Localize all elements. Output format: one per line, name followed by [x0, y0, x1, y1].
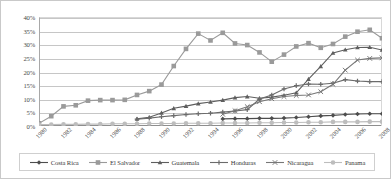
data-point-marker	[380, 111, 382, 116]
data-point-marker	[98, 122, 103, 126]
data-point-marker	[233, 41, 238, 46]
x-axis-tick-label: 1986	[108, 126, 122, 140]
data-point-marker	[61, 122, 66, 126]
data-point-marker	[355, 120, 360, 125]
data-point-marker	[135, 117, 140, 122]
x-axis-tick-label: 2008	[377, 126, 391, 140]
data-point-marker	[245, 121, 250, 126]
data-point-marker	[294, 120, 299, 125]
data-point-marker	[331, 42, 336, 47]
data-point-marker	[122, 122, 127, 126]
data-point-marker	[159, 114, 164, 119]
data-point-marker	[184, 121, 189, 126]
data-point-marker	[380, 36, 382, 41]
legend-item-el-salvador[interactable]: El Salvador	[88, 158, 140, 167]
data-point-marker	[122, 98, 127, 103]
legend-item-nicaragua[interactable]: Nicaragua	[265, 158, 313, 167]
legend-label: Honduras	[231, 159, 256, 166]
y-axis-tick-label: 0%	[1, 123, 35, 130]
legend-label: El Salvador	[110, 159, 140, 166]
data-point-marker	[343, 120, 348, 125]
x-axis-tick-label: 1984	[83, 126, 97, 140]
legend-item-honduras[interactable]: Honduras	[209, 158, 256, 167]
series-panama	[39, 119, 382, 126]
legend-item-panama[interactable]: Panama	[323, 158, 365, 167]
legend-label: Nicaragua	[287, 159, 313, 166]
data-point-marker	[343, 77, 348, 82]
x-axis-tick-label: 2006	[353, 126, 367, 140]
x-axis-tick-label: 1990	[157, 126, 171, 140]
data-point-marker	[61, 104, 66, 109]
data-point-marker	[269, 59, 274, 64]
y-axis-tick-label: 25%	[1, 54, 35, 61]
data-point-marker	[380, 119, 382, 124]
legend-item-guatemala[interactable]: Guatemala	[150, 158, 200, 167]
data-point-marker	[355, 112, 360, 117]
legend-label: Panama	[345, 159, 365, 166]
data-point-marker	[343, 34, 348, 39]
data-point-marker	[331, 120, 336, 125]
data-point-marker	[220, 121, 225, 126]
y-axis-tick-label: 40%	[1, 14, 35, 21]
data-point-marker	[49, 122, 54, 126]
data-point-marker	[367, 111, 372, 116]
data-point-marker	[343, 68, 348, 73]
x-axis-tick-label: 1982	[59, 126, 73, 140]
y-axis-tick-label: 15%	[1, 82, 35, 89]
data-point-marker	[355, 79, 360, 84]
data-point-marker	[49, 114, 54, 119]
y-axis-tick-label: 30%	[1, 41, 35, 48]
data-point-marker	[318, 82, 323, 87]
data-point-marker	[331, 160, 336, 165]
data-point-marker	[73, 103, 78, 108]
data-point-marker	[233, 116, 238, 121]
data-point-marker	[257, 50, 262, 55]
legend-plus-marker-icon	[209, 158, 229, 167]
y-axis-tick-label: 10%	[1, 95, 35, 102]
y-axis-tick-label: 35%	[1, 27, 35, 34]
data-point-marker	[135, 122, 140, 126]
series-layer	[39, 17, 382, 126]
data-point-marker	[355, 29, 360, 34]
x-axis-tick-label: 1980	[34, 126, 48, 140]
data-point-marker	[343, 112, 348, 117]
data-point-marker	[216, 160, 221, 165]
legend-circle-marker-icon	[323, 158, 343, 167]
data-point-marker	[282, 52, 287, 57]
data-point-marker	[98, 98, 103, 103]
x-axis-tick-label: 2000	[279, 126, 293, 140]
data-point-marker	[110, 98, 115, 103]
data-point-marker	[282, 120, 287, 125]
data-point-marker	[171, 113, 176, 118]
data-point-marker	[196, 121, 201, 126]
data-point-marker	[73, 122, 78, 126]
data-point-marker	[208, 121, 213, 126]
data-point-marker	[96, 160, 101, 165]
data-point-marker	[282, 116, 287, 121]
data-point-marker	[306, 120, 311, 125]
legend-item-costa-rica[interactable]: Costa Rica	[29, 158, 79, 167]
x-axis-labels: 1980198219841986198819901992199419961998…	[39, 127, 382, 153]
data-point-marker	[159, 121, 164, 126]
series-el-salvador	[39, 28, 382, 126]
data-point-marker	[208, 111, 213, 116]
data-point-marker	[196, 31, 201, 36]
data-point-marker	[269, 120, 274, 125]
legend-triangle-marker-icon	[150, 158, 170, 167]
data-point-marker	[380, 79, 382, 84]
data-point-marker	[257, 116, 262, 121]
data-point-marker	[86, 122, 91, 126]
data-point-marker	[159, 82, 164, 87]
y-axis-tick-label: 5%	[1, 109, 35, 116]
x-axis-tick-label: 1996	[230, 126, 244, 140]
data-point-marker	[318, 45, 323, 50]
x-axis-tick-label: 1994	[206, 126, 220, 140]
line-chart: 0%5%10%15%20%25%30%35%40% 19801982198419…	[0, 0, 391, 179]
series-guatemala	[135, 45, 382, 121]
series-nicaragua	[220, 56, 382, 117]
legend-label: Costa Rica	[51, 159, 79, 166]
data-point-marker	[294, 83, 299, 88]
data-point-marker	[318, 114, 323, 119]
data-point-marker	[86, 98, 91, 103]
data-point-marker	[233, 121, 238, 126]
